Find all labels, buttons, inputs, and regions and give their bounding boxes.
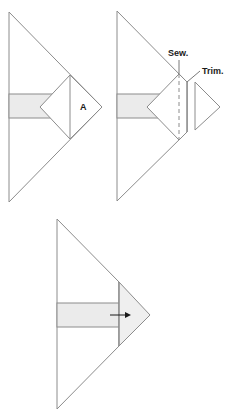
panel-step-2: Sew. Trim. [117, 11, 224, 201]
quilt-diagram: A Sew. Trim. [0, 0, 234, 414]
trim-leader [187, 71, 200, 82]
panel-step-3 [57, 219, 150, 409]
label-sew: Sew. [168, 48, 188, 58]
label-trim: Trim. [202, 66, 224, 76]
panel-step-1: A [9, 12, 102, 202]
label-a: A [80, 102, 87, 112]
pressed-triangle [119, 282, 150, 346]
trimmed-piece [195, 82, 220, 130]
fabric-strip [57, 303, 119, 327]
